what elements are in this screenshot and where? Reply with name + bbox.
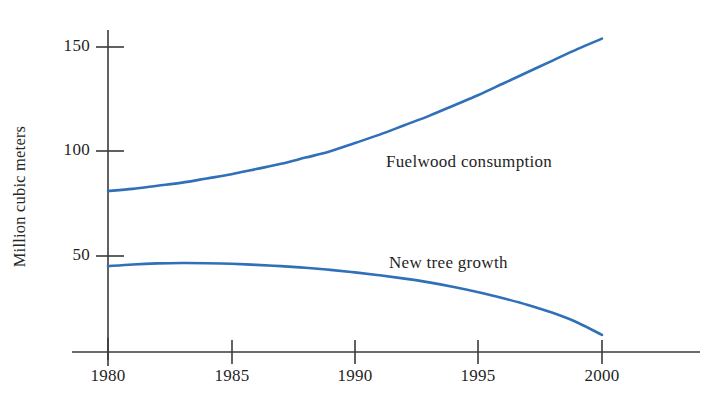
x-tick-label-1985: 1985 bbox=[192, 366, 272, 386]
series-line-new-tree-growth bbox=[108, 263, 602, 335]
x-tick-label-1990: 1990 bbox=[315, 366, 395, 386]
x-tick-label-2000: 2000 bbox=[562, 366, 642, 386]
y-tick-label-150: 150 bbox=[40, 36, 90, 56]
x-tick-label-1995: 1995 bbox=[438, 366, 518, 386]
y-tick-label-50: 50 bbox=[40, 245, 90, 265]
y-tick-label-100: 100 bbox=[40, 140, 90, 160]
series-annotation-new-tree-growth: New tree growth bbox=[389, 253, 508, 273]
plot-area bbox=[0, 0, 708, 393]
chart-figure: Million cubic meters 150 100 50 1980 198… bbox=[0, 0, 708, 393]
x-tick-label-1980: 1980 bbox=[68, 366, 148, 386]
series-annotation-fuelwood-consumption: Fuelwood consumption bbox=[386, 152, 552, 172]
